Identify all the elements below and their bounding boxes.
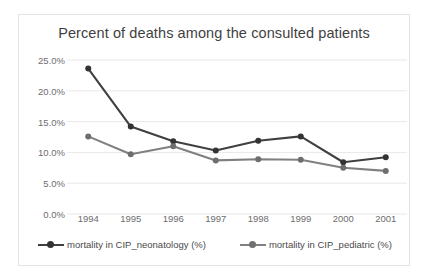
chart-legend: mortality in CIP_neonatology (%) mortali… (19, 239, 411, 250)
x-axis-tick-label: 2000 (333, 213, 354, 224)
legend-marker-icon (38, 240, 64, 250)
x-axis-tick-label: 1994 (78, 213, 99, 224)
legend-item-neonatology[interactable]: mortality in CIP_neonatology (%) (38, 239, 206, 250)
legend-marker-icon (240, 240, 266, 250)
x-axis-tick-label: 1998 (248, 213, 269, 224)
x-axis-tick-label: 1996 (163, 213, 184, 224)
chart-container: Percent of deaths among the consulted pa… (18, 14, 410, 266)
x-axis-tick-labels: 19941995199619971998199920002001 (19, 15, 411, 267)
plot-area: 25.0%20.0%15.0%10.0%5.0%0.0% 19941995199… (19, 15, 411, 267)
x-axis-tick-label: 1995 (120, 213, 141, 224)
x-axis-tick-label: 1999 (290, 213, 311, 224)
legend-label-neonatology: mortality in CIP_neonatology (%) (67, 239, 206, 250)
x-axis-tick-label: 1997 (205, 213, 226, 224)
legend-item-pediatric[interactable]: mortality in CIP_pediatric (%) (240, 239, 392, 250)
legend-label-pediatric: mortality in CIP_pediatric (%) (269, 239, 392, 250)
x-axis-tick-label: 2001 (375, 213, 396, 224)
